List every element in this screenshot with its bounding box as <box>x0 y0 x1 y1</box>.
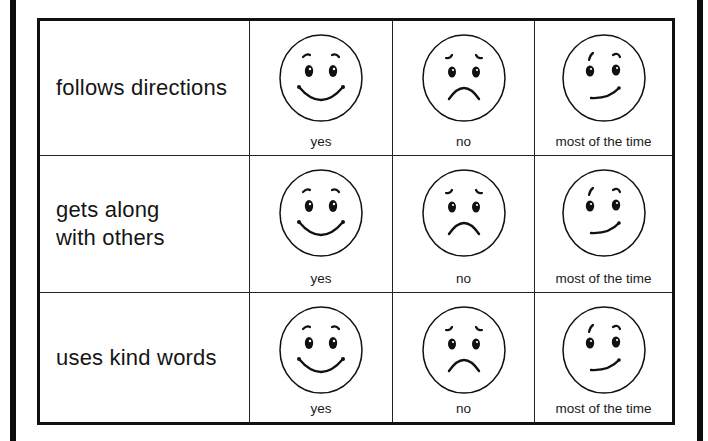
behavior-cell: gets along with others <box>40 156 250 293</box>
choice-label: most of the time <box>535 134 672 149</box>
choice-cell-most-of-the-time[interactable]: most of the time <box>535 293 672 422</box>
happy-face-icon <box>276 33 366 123</box>
smirk-face-icon <box>559 305 649 395</box>
choice-label: most of the time <box>535 271 672 286</box>
choice-cell-no[interactable]: no <box>393 21 535 156</box>
choice-label: yes <box>250 134 392 149</box>
choice-label: no <box>393 401 534 416</box>
choice-label: no <box>393 134 534 149</box>
choice-label: yes <box>250 271 392 286</box>
choice-cell-yes[interactable]: yes <box>250 21 393 156</box>
happy-face-icon <box>276 305 366 395</box>
choice-cell-no[interactable]: no <box>393 293 535 422</box>
choice-label: most of the time <box>535 401 672 416</box>
left-frame-bar <box>10 0 16 441</box>
choice-label: no <box>393 271 534 286</box>
choice-cell-most-of-the-time[interactable]: most of the time <box>535 21 672 156</box>
behavior-label: follows directions <box>56 74 227 102</box>
sad-face-icon <box>419 33 509 123</box>
right-frame-bar <box>697 0 703 441</box>
smirk-face-icon <box>559 168 649 258</box>
behavior-cell: uses kind words <box>40 293 250 422</box>
choice-cell-no[interactable]: no <box>393 156 535 293</box>
sad-face-icon <box>419 168 509 258</box>
behavior-chart-table: follows directions yes <box>37 18 675 425</box>
sad-face-icon <box>419 305 509 395</box>
smirk-face-icon <box>559 33 649 123</box>
choice-cell-yes[interactable]: yes <box>250 293 393 422</box>
choice-cell-yes[interactable]: yes <box>250 156 393 293</box>
happy-face-icon <box>276 168 366 258</box>
behavior-label: uses kind words <box>56 344 217 372</box>
choice-cell-most-of-the-time[interactable]: most of the time <box>535 156 672 293</box>
behavior-cell: follows directions <box>40 21 250 156</box>
choice-label: yes <box>250 401 392 416</box>
behavior-label: gets along with others <box>56 196 165 252</box>
